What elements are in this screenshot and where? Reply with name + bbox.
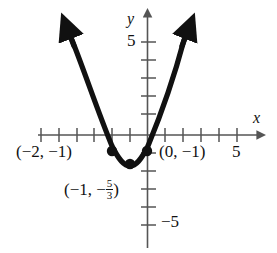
y-axis-label: y <box>127 11 134 27</box>
point-right <box>142 146 152 156</box>
x-axis-label: x <box>253 110 260 126</box>
marked-points <box>107 146 152 169</box>
point-label-left: (−2, −1) <box>16 143 72 160</box>
point-label-vertex: (−1, −53) <box>64 178 119 201</box>
y-tick-label-5: 5 <box>127 32 136 49</box>
x-tick-label-5: 5 <box>232 143 241 160</box>
point-left <box>107 146 117 156</box>
fraction-denominator: 3 <box>106 189 114 201</box>
point-label-right: (0, −1) <box>159 143 205 160</box>
vertex-label-prefix: (−1, − <box>64 181 106 198</box>
point-vertex <box>125 159 135 169</box>
y-tick-label-minus-5: −5 <box>161 213 179 230</box>
graph-figure: y x 5 −5 5 (−2, −1) (0, −1) (−1, −53) <box>0 0 277 253</box>
fraction-numerator: 5 <box>106 178 114 189</box>
coordinate-plane-svg <box>0 0 277 253</box>
vertex-label-fraction: 53 <box>106 178 114 201</box>
vertex-label-suffix: ) <box>113 181 119 198</box>
